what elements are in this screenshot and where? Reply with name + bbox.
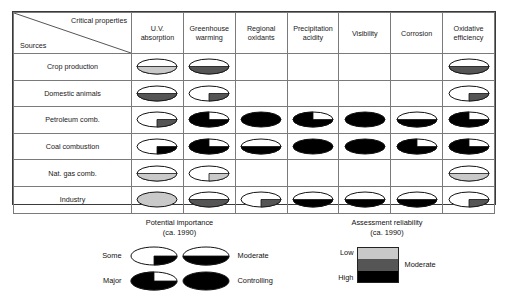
column-header-line1: U.V. (132, 24, 183, 33)
matrix-cell (287, 160, 339, 187)
legend-item-row: Major Controlling (72, 271, 287, 291)
column-header-line2: absorption (132, 33, 183, 42)
importance-symbol (448, 111, 490, 128)
importance-symbol (448, 85, 490, 102)
matrix-cell (339, 54, 391, 81)
importance-symbol (136, 111, 178, 128)
matrix-cell (183, 80, 235, 107)
importance-symbol (396, 111, 438, 128)
importance-symbol (448, 165, 490, 182)
reliability-label-low: Low (338, 248, 353, 257)
legend-assessment-reliability: Assessment reliability (ca. 1990) Low Hi… (292, 218, 482, 283)
importance-symbol (344, 138, 386, 155)
row-header-petroleum-comb: Petroleum comb. (14, 107, 132, 134)
column-header-line2: warming (184, 33, 235, 42)
matrix-table: Critical properties Sources U.V. absorpt… (13, 12, 495, 214)
matrix-cell (339, 80, 391, 107)
importance-symbol (188, 85, 230, 102)
legend-symbol-major (128, 271, 180, 291)
matrix-header-row: Critical properties Sources U.V. absorpt… (14, 13, 495, 54)
importance-symbol (344, 191, 386, 208)
matrix-cell (235, 160, 287, 187)
column-header-greenhouse-warming: Greenhouse warming (183, 13, 235, 54)
row-header-domestic-animals: Domestic animals (14, 80, 132, 107)
column-header-line2: efficiency (443, 33, 494, 42)
matrix-corner-cell: Critical properties Sources (14, 13, 132, 54)
matrix-cell (391, 107, 443, 134)
reliability-label-high: High (338, 273, 353, 282)
importance-symbol (396, 191, 438, 208)
reliability-label-moderate: Moderate (399, 260, 435, 269)
legend-importance-symbol (130, 246, 178, 266)
matrix-cell (183, 107, 235, 134)
legend-symbol-controlling (180, 271, 232, 291)
importance-symbol (188, 191, 230, 208)
matrix-cell (339, 107, 391, 134)
row-axis-label: Sources (20, 41, 46, 50)
matrix-row: Crop production (14, 54, 495, 81)
legend-importance-title-block: Potential importance (ca. 1990) (72, 218, 287, 238)
legend-importance-title: Potential importance (146, 218, 213, 227)
importance-symbol (136, 58, 178, 75)
matrix-cell (287, 186, 339, 213)
matrix-cell (443, 80, 495, 107)
matrix-cell (443, 107, 495, 134)
importance-symbol (448, 138, 490, 155)
column-header-line1: Visibility (339, 29, 390, 38)
legend-importance-symbol (130, 271, 178, 291)
legend-label-controlling: Controlling (232, 276, 284, 285)
importance-symbol (292, 111, 334, 128)
matrix-cell (391, 54, 443, 81)
matrix-cell (132, 160, 184, 187)
matrix-body: Crop productionDomestic animalsPetroleum… (14, 54, 495, 214)
importance-symbol (188, 138, 230, 155)
matrix-cell (183, 54, 235, 81)
importance-symbol (396, 138, 438, 155)
reliability-band-low (358, 248, 398, 259)
matrix-cell (391, 160, 443, 187)
matrix-row: Nat. gas comb. (14, 160, 495, 187)
matrix-cell (339, 133, 391, 160)
matrix-row: Domestic animals (14, 80, 495, 107)
legend-importance-subtitle: (ca. 1990) (72, 228, 287, 238)
matrix-row: Industry (14, 186, 495, 213)
column-header-line2: oxidants (236, 33, 287, 42)
matrix-cell (235, 186, 287, 213)
legend-potential-importance: Potential importance (ca. 1990) Some Mod… (72, 218, 287, 295)
column-header-line1: Greenhouse (184, 24, 235, 33)
matrix-cell (235, 80, 287, 107)
matrix-cell (339, 186, 391, 213)
importance-symbol (188, 165, 230, 182)
matrix-cell (443, 54, 495, 81)
column-header-uv-absorption: U.V. absorption (132, 13, 184, 54)
matrix-cell (339, 160, 391, 187)
matrix-cell (183, 186, 235, 213)
importance-symbol (448, 191, 490, 208)
legend-importance-symbol (182, 246, 230, 266)
column-header-regional-oxidants: Regional oxidants (235, 13, 287, 54)
importance-symbol (188, 58, 230, 75)
matrix-cell (132, 186, 184, 213)
matrix-cell (443, 160, 495, 187)
matrix-cell (443, 133, 495, 160)
column-header-corrosion: Corrosion (391, 13, 443, 54)
legend-item-row: Some Moderate (72, 246, 287, 266)
source-property-matrix: Critical properties Sources U.V. absorpt… (12, 11, 496, 205)
matrix-cell (287, 107, 339, 134)
reliability-scale-labels: Low High (338, 248, 357, 282)
importance-symbol (240, 138, 282, 155)
importance-symbol (292, 191, 334, 208)
row-header-nat-gas-comb: Nat. gas comb. (14, 160, 132, 187)
legend-label-major: Major (76, 276, 128, 285)
matrix-cell (183, 133, 235, 160)
matrix-cell (287, 80, 339, 107)
importance-symbol (240, 191, 282, 208)
legend-importance-rows: Some Moderate Major Controlling (72, 246, 287, 291)
matrix-row: Petroleum comb. (14, 107, 495, 134)
column-header-oxidative-efficiency: Oxidative efficiency (443, 13, 495, 54)
matrix-header: Critical properties Sources U.V. absorpt… (14, 13, 495, 54)
importance-symbol (136, 191, 178, 208)
column-header-line1: Oxidative (443, 24, 494, 33)
matrix-cell (235, 133, 287, 160)
importance-symbol (188, 111, 230, 128)
